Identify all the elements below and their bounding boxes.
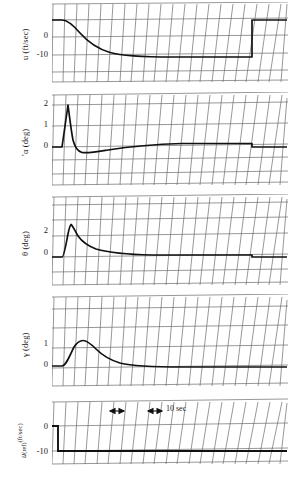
panel-u-ytick-1: -10 bbox=[20, 49, 48, 59]
time-scale-annotation bbox=[110, 409, 162, 414]
panel-uref-ylabel: u(ref)(ft/sec) bbox=[16, 406, 28, 476]
panel-gamma-ytick-1: 0 bbox=[24, 359, 48, 369]
panel-gamma: γ (deg) 1 0 bbox=[0, 293, 294, 390]
panel-alpha: ′α (deg) 2 1 0 bbox=[0, 92, 294, 190]
panel-alpha-ytick-2: 0 bbox=[24, 140, 48, 150]
panel-theta: θ (deg) 2 0 bbox=[0, 193, 294, 290]
panel-uref-ytick-1: -10 bbox=[20, 446, 48, 456]
panel-theta-plot bbox=[52, 194, 288, 288]
panel-gamma-ytick-0: 1 bbox=[24, 338, 48, 348]
panel-theta-ytick-1: 0 bbox=[24, 247, 48, 257]
panel-u-plot bbox=[52, 2, 288, 84]
panel-uref: u(ref)(ft/sec) 0 -10 bbox=[0, 398, 294, 483]
panel-u-ylabel: u (ft/sec) bbox=[20, 6, 30, 82]
panel-u-ytick-0: 0 bbox=[24, 30, 48, 40]
uref-units: (ft/sec) bbox=[16, 424, 23, 443]
panel-theta-ylabel: θ (deg) bbox=[20, 207, 30, 281]
panel-theta-ytick-0: 2 bbox=[24, 225, 48, 235]
panel-alpha-svg bbox=[52, 92, 288, 188]
panel-theta-svg bbox=[52, 194, 288, 288]
panel-u-svg bbox=[52, 2, 288, 84]
time-scale-label: 10 sec bbox=[166, 404, 186, 413]
panel-alpha-ytick-0: 2 bbox=[24, 98, 48, 108]
panel-gamma-plot bbox=[52, 294, 288, 389]
panel-alpha-plot bbox=[52, 92, 288, 188]
panel-uref-ytick-0: 0 bbox=[24, 421, 48, 431]
figure-root: u (ft/sec) 0 -10 bbox=[0, 0, 294, 483]
panel-gamma-svg bbox=[52, 294, 288, 389]
panel-alpha-ytick-1: 1 bbox=[24, 119, 48, 129]
panel-u: u (ft/sec) 0 -10 bbox=[0, 0, 294, 90]
